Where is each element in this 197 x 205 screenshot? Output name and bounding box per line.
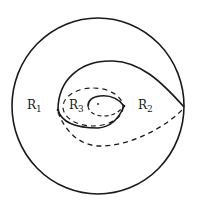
left-cusp-dot — [57, 109, 60, 112]
center-dot — [97, 103, 99, 105]
r1-letter: R — [27, 98, 36, 112]
region-label-r3: R3 — [69, 99, 84, 114]
outer-solid-loop — [58, 61, 184, 128]
region-label-r2: R2 — [138, 99, 153, 114]
r2-subscript: 2 — [147, 104, 153, 114]
right-cusp-dot — [123, 105, 126, 108]
region-label-r1: R1 — [27, 99, 42, 114]
inner-dashed-teardrop-bottom — [88, 106, 124, 116]
r3-subscript: 3 — [78, 104, 84, 114]
r2-letter: R — [138, 98, 147, 112]
r1-subscript: 1 — [36, 104, 42, 114]
r3-letter: R — [69, 98, 78, 112]
